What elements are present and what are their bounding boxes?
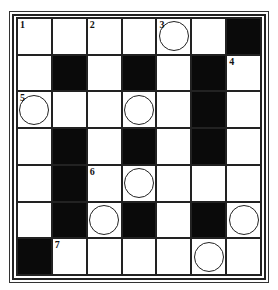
grid-cell[interactable] [122, 91, 157, 128]
grid-cell[interactable]: 6 [87, 165, 122, 202]
grid-cell[interactable] [17, 202, 52, 239]
clue-number: 5 [20, 92, 25, 103]
grid-cell[interactable] [17, 165, 52, 202]
black-cell [191, 55, 226, 92]
grid-cell[interactable]: 4 [226, 55, 261, 92]
black-cell [191, 128, 226, 165]
clue-number: 2 [90, 19, 95, 30]
circle-icon [124, 95, 154, 125]
black-cell [122, 202, 157, 239]
grid-cell[interactable] [87, 55, 122, 92]
grid-cell[interactable] [191, 238, 226, 275]
grid-cell[interactable] [122, 165, 157, 202]
grid-cell[interactable] [87, 91, 122, 128]
grid-cell[interactable] [156, 55, 191, 92]
grid-cell[interactable] [87, 238, 122, 275]
grid-cell[interactable]: 5 [17, 91, 52, 128]
grid-cell[interactable]: 7 [52, 238, 87, 275]
grid-cell[interactable] [191, 165, 226, 202]
black-cell [226, 18, 261, 55]
crossword-grid: 1234567 [16, 17, 262, 276]
clue-number: 4 [229, 56, 234, 67]
grid-cell[interactable] [226, 238, 261, 275]
grid-cell[interactable] [17, 128, 52, 165]
black-cell [122, 55, 157, 92]
circle-icon [124, 168, 154, 198]
grid-cell[interactable] [87, 202, 122, 239]
grid-cell[interactable] [87, 128, 122, 165]
circle-icon [229, 205, 259, 235]
black-cell [52, 55, 87, 92]
circle-icon [194, 242, 224, 272]
grid-cell[interactable] [156, 238, 191, 275]
black-cell [52, 165, 87, 202]
black-cell [191, 202, 226, 239]
clue-number: 1 [20, 19, 25, 30]
grid-cell[interactable] [52, 91, 87, 128]
grid-cell[interactable] [226, 91, 261, 128]
black-cell [52, 128, 87, 165]
black-cell [52, 202, 87, 239]
grid-cell[interactable]: 2 [87, 18, 122, 55]
clue-number: 6 [90, 166, 95, 177]
grid-cell[interactable] [17, 55, 52, 92]
grid-cell[interactable] [226, 202, 261, 239]
clue-number: 3 [159, 19, 164, 30]
grid-cell[interactable] [122, 238, 157, 275]
grid-cell[interactable] [156, 91, 191, 128]
grid-cell[interactable] [52, 18, 87, 55]
grid-cell[interactable] [156, 128, 191, 165]
grid-cell[interactable] [226, 128, 261, 165]
grid-cell[interactable] [122, 18, 157, 55]
black-cell [191, 91, 226, 128]
black-cell [122, 128, 157, 165]
clue-number: 7 [55, 239, 60, 250]
circle-icon [89, 205, 119, 235]
grid-cell[interactable] [156, 165, 191, 202]
black-cell [17, 238, 52, 275]
grid-cell[interactable] [226, 165, 261, 202]
grid-cell[interactable] [191, 18, 226, 55]
grid-cell[interactable] [156, 202, 191, 239]
grid-cell[interactable]: 3 [156, 18, 191, 55]
grid-cell[interactable]: 1 [17, 18, 52, 55]
